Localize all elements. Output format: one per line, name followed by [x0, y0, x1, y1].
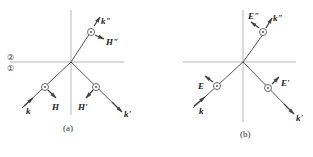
H-double-arrow	[95, 35, 104, 39]
region-1-label: ①	[7, 64, 14, 73]
label-k-double: k"	[273, 13, 283, 23]
transmitted-ray	[243, 33, 264, 62]
label-H-prime: H'	[77, 102, 88, 112]
label-k-prime: k'	[296, 113, 304, 123]
H-prime-arrow	[86, 90, 93, 98]
figure-a: ② ① k H H' k' k" H" (a)	[7, 10, 132, 133]
caption-a: (a)	[63, 123, 73, 133]
k-prime-arrow	[112, 102, 122, 112]
k-prime-arrow	[284, 104, 294, 114]
label-H: H	[51, 102, 60, 112]
label-H-double: H"	[105, 37, 118, 47]
label-k: k	[26, 106, 31, 116]
caption-b: (b)	[240, 129, 251, 139]
label-k-prime: k'	[124, 109, 132, 119]
label-E-double: E"	[247, 11, 259, 21]
k-arrow	[194, 97, 205, 106]
figure-b: E k E' k' E" k" (b)	[183, 10, 304, 139]
E-arrow	[205, 76, 213, 82]
diagram-canvas: ② ① k H H' k' k" H" (a)	[0, 0, 313, 157]
H-arrow	[48, 90, 56, 98]
region-2-label: ②	[7, 53, 14, 62]
E-prime-arrow	[272, 77, 279, 84]
k-double-arrow	[266, 18, 272, 28]
label-k: k	[199, 106, 204, 116]
label-E: E	[197, 81, 204, 91]
label-k-double: k"	[101, 16, 111, 26]
E-double-arrow	[251, 22, 259, 28]
label-E-prime: E'	[280, 78, 290, 88]
k-arrow	[24, 98, 33, 106]
k-double-arrow	[94, 17, 100, 26]
